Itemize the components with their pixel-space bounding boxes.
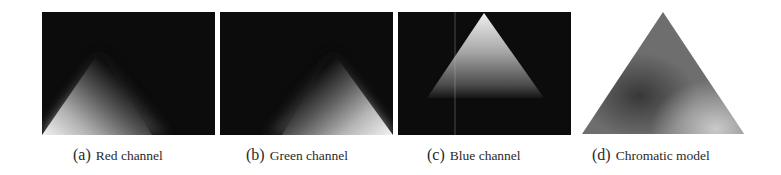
caption-d-tag: (d) <box>592 146 611 163</box>
panel-red-channel <box>42 12 215 135</box>
panel-green-channel <box>220 12 393 135</box>
blue-channel-image <box>398 12 571 135</box>
panel-chromatic-model <box>582 12 745 135</box>
caption-b-tag: (b) <box>246 146 265 163</box>
red-channel-image <box>42 12 215 135</box>
caption-b: (b)Green channel <box>246 145 348 165</box>
chromatic-model-image <box>582 12 745 135</box>
caption-c-label: Blue channel <box>450 148 521 163</box>
caption-d-label: Chromatic model <box>616 148 710 163</box>
panel-blue-channel <box>398 12 571 135</box>
caption-a-label: Red channel <box>96 148 163 163</box>
caption-c: (c)Blue channel <box>427 145 521 165</box>
caption-d: (d)Chromatic model <box>592 145 710 165</box>
caption-a: (a)Red channel <box>73 145 163 165</box>
green-channel-image <box>220 12 393 135</box>
caption-c-tag: (c) <box>427 146 445 163</box>
caption-b-label: Green channel <box>270 148 348 163</box>
caption-a-tag: (a) <box>73 146 91 163</box>
